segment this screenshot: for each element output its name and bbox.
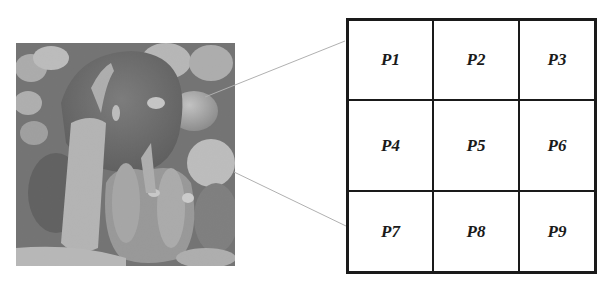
grid-cell-p3: P3: [520, 21, 594, 101]
peppers-image: [16, 43, 235, 266]
grid-cell-p4: P4: [349, 101, 434, 192]
bottom-connector: [234, 172, 346, 226]
grid-cell-p7: P7: [349, 192, 434, 271]
grid-cell-p1: P1: [349, 21, 434, 101]
grid-cell-p8: P8: [434, 192, 520, 271]
pixel-grid-3x3: P1 P2 P3 P4 P5 P6 P7 P8 P9: [346, 18, 597, 274]
peppers-photo: [16, 43, 235, 266]
grid-cell-p2: P2: [434, 21, 520, 101]
grid-cell-p5: P5: [434, 101, 520, 192]
grid-cell-p6: P6: [520, 101, 594, 192]
grid-cell-p9: P9: [520, 192, 594, 271]
